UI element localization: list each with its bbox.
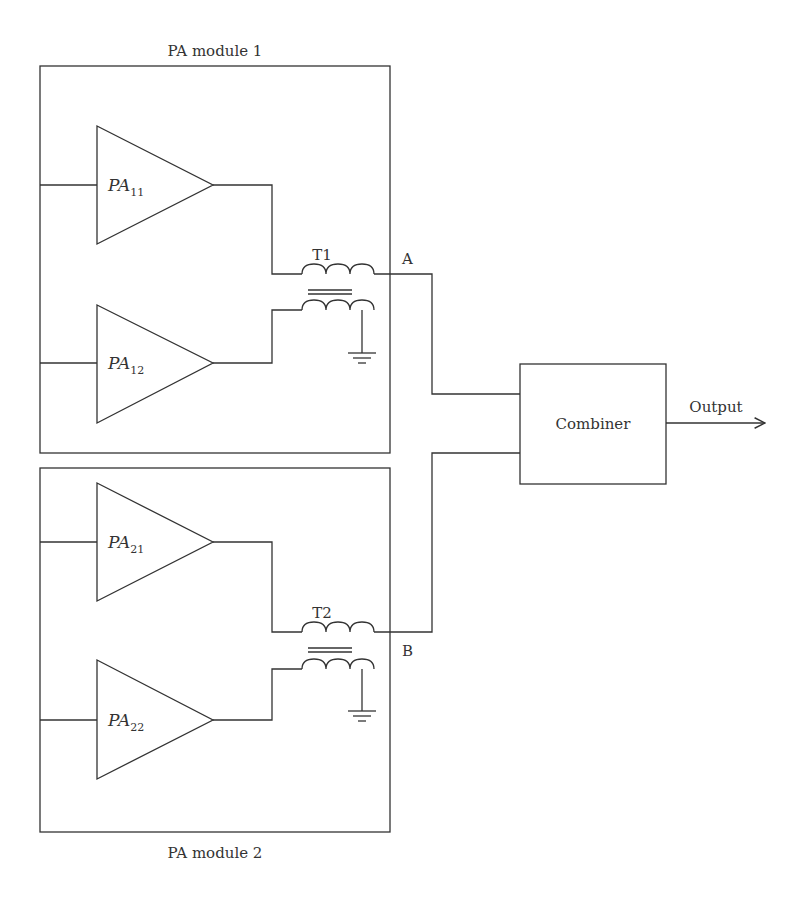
amplifier-pa11: PA11: [97, 126, 213, 244]
module-2-title: PA module 2: [168, 844, 263, 862]
amplifier-label: PA11: [107, 175, 144, 199]
combiner-label: Combiner: [556, 415, 632, 433]
t1-primary-coil-icon: [302, 264, 374, 274]
output-label: Output: [689, 398, 742, 416]
t1-secondary-coil-icon: [302, 300, 374, 310]
combiner-block: Combiner: [520, 364, 666, 484]
transformer-t2-label: T2: [312, 604, 332, 622]
ground-icon: [348, 353, 376, 363]
pa22-output-wire: [213, 669, 302, 720]
node-b-wire: [374, 453, 520, 632]
pa12-output-wire: [213, 310, 302, 363]
module-1-box: [40, 66, 390, 453]
amplifier-label: PA22: [107, 710, 144, 734]
pa-module-1: PA module 1 PA11 PA12: [40, 42, 520, 453]
pa-module-2: PA module 2 PA21 PA22 T2 B: [40, 453, 520, 862]
pa11-output-wire: [213, 185, 302, 274]
transformer-t1-label: T1: [312, 246, 332, 264]
amplifier-pa12: PA12: [97, 305, 213, 423]
node-b-label: B: [402, 642, 413, 660]
amplifier-pa21: PA21: [97, 483, 213, 601]
node-a-wire: [374, 274, 520, 394]
pa21-output-wire: [213, 542, 302, 632]
amplifier-pa22: PA22: [97, 660, 213, 779]
module-2-box: [40, 468, 390, 832]
t2-secondary-coil-icon: [302, 659, 374, 669]
power-combining-diagram: PA module 1 PA11 PA12: [0, 0, 791, 897]
amplifier-label: PA12: [107, 353, 144, 377]
ground-icon: [348, 711, 376, 721]
node-a-label: A: [401, 250, 413, 268]
module-1-title: PA module 1: [168, 42, 263, 60]
amplifier-label: PA21: [107, 532, 144, 556]
t2-primary-coil-icon: [302, 622, 374, 632]
